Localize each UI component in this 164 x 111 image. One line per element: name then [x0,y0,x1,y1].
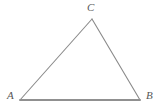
edge-AC [20,19,92,100]
vertex-label-a: A [7,90,14,101]
triangle-figure: A B C [0,0,164,111]
triangle-diagram [0,0,164,111]
edge-CB [92,19,140,100]
vertex-label-b: B [146,90,153,101]
vertex-label-c: C [87,2,94,13]
